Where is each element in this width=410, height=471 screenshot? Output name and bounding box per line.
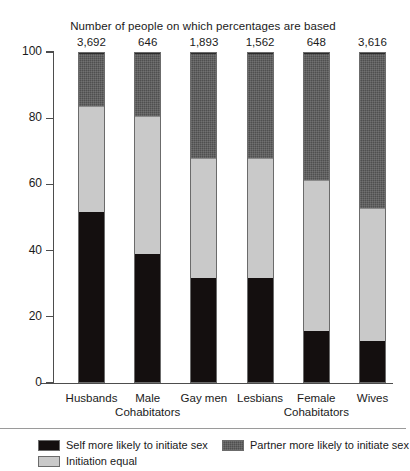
bar-segment bbox=[79, 53, 104, 106]
y-axis-tick-label: 60 bbox=[0, 176, 42, 190]
bar-wives bbox=[359, 52, 386, 383]
bar-segment bbox=[191, 53, 216, 158]
y-axis-line bbox=[53, 52, 54, 383]
bar-segment bbox=[79, 106, 104, 213]
legend-swatch-equal-icon bbox=[38, 456, 60, 467]
sample-size-label: 1,893 bbox=[176, 36, 232, 48]
bar-segment bbox=[360, 208, 385, 341]
bar-gay-men bbox=[190, 52, 217, 383]
sample-size-label: 3,692 bbox=[64, 36, 120, 48]
bar-segment bbox=[248, 158, 273, 278]
bar-segment bbox=[304, 180, 329, 332]
sample-size-label: 648 bbox=[288, 36, 344, 48]
bar-lesbians bbox=[247, 52, 274, 383]
sample-size-label: 646 bbox=[120, 36, 176, 48]
legend-item-self: Self more likely to initiate sex bbox=[38, 439, 208, 451]
plot-area: 020406080100 3,6926461,8931,5626483,616 … bbox=[0, 0, 406, 400]
bar-segment bbox=[304, 331, 329, 382]
bar-male-cohabitators bbox=[134, 52, 161, 383]
bar-segment bbox=[248, 53, 273, 158]
y-axis-tick bbox=[46, 51, 54, 52]
bar-segment bbox=[79, 212, 104, 382]
y-axis-tick bbox=[46, 118, 54, 119]
bar-segment bbox=[135, 116, 160, 254]
sample-size-label: 3,616 bbox=[345, 36, 401, 48]
bar-segment bbox=[191, 158, 216, 277]
y-axis-tick-label: 80 bbox=[0, 110, 42, 124]
bar-segment bbox=[304, 53, 329, 180]
bar-husbands bbox=[78, 52, 105, 383]
legend-label-equal: Initiation equal bbox=[66, 455, 137, 467]
legend-label-partner: Partner more likely to initiate sex bbox=[250, 439, 409, 451]
y-axis-tick bbox=[46, 184, 54, 185]
sample-size-label: 1,562 bbox=[232, 36, 288, 48]
legend-swatch-partner-icon bbox=[222, 440, 244, 451]
bar-segment bbox=[360, 341, 385, 382]
bar-segment bbox=[135, 53, 160, 116]
legend-label-self: Self more likely to initiate sex bbox=[66, 439, 208, 451]
y-axis-tick-label: 100 bbox=[0, 44, 42, 58]
y-axis-tick bbox=[46, 250, 54, 251]
category-label: Wives bbox=[336, 391, 410, 405]
y-axis-tick bbox=[46, 316, 54, 317]
y-axis-tick-label: 0 bbox=[0, 375, 42, 389]
bar-segment bbox=[191, 278, 216, 382]
category-label-line: Cohabitators bbox=[279, 405, 353, 419]
y-axis-tick bbox=[46, 382, 54, 383]
legend-item-equal: Initiation equal bbox=[38, 455, 137, 467]
legend-swatch-self-icon bbox=[38, 440, 60, 451]
y-axis-tick-label: 20 bbox=[0, 309, 42, 323]
chart-legend: Self more likely to initiate sex Partner… bbox=[0, 428, 406, 471]
category-label-line: Cohabitators bbox=[111, 405, 185, 419]
bar-segment bbox=[135, 254, 160, 382]
x-axis-line bbox=[41, 383, 393, 384]
bar-segment bbox=[248, 278, 273, 382]
bar-female-cohabitators bbox=[303, 52, 330, 383]
legend-item-partner: Partner more likely to initiate sex bbox=[222, 439, 409, 451]
y-axis-tick-label: 40 bbox=[0, 243, 42, 257]
category-label-line: Wives bbox=[336, 391, 410, 405]
bar-segment bbox=[360, 53, 385, 208]
